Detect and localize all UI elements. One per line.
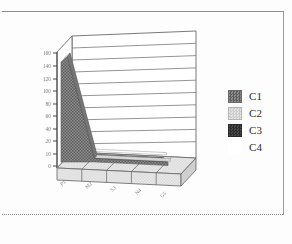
y-tick-label: 100 [43,88,51,94]
legend-item-c3: C3 [228,122,286,139]
legend-swatch-c4 [228,141,242,154]
y-tick-label: 60 [46,113,52,119]
x-tick-label: S3 [109,184,117,192]
legend-item-c2: C2 [228,105,286,122]
chart-legend: C1 C2 C3 C4 [228,88,286,156]
legend-swatch-c3 [228,124,242,137]
y-tick-label: 10 [46,151,52,157]
legend-label-c2: C2 [249,108,262,119]
x-tick-label: G5 [159,190,168,199]
scanned-page: 160 140 120 100 80 60 40 20 10 0 [0,0,292,244]
y-axis-tick-labels: 160 140 120 100 80 60 40 20 10 0 [43,50,51,169]
legend-item-c4: C4 [228,139,286,156]
y-tick-label: 140 [43,63,51,69]
legend-label-c4: C4 [249,142,262,153]
y-tick-label: 0 [48,163,51,169]
y-tick-label: 120 [43,76,51,82]
legend-swatch-c1 [228,90,242,103]
legend-label-c1: C1 [249,91,262,102]
y-axis-ticks [53,53,57,166]
legend-swatch-c2 [228,107,242,120]
y-tick-label: 40 [46,126,52,132]
y-tick-label: 80 [46,101,52,107]
legend-item-c1: C1 [228,88,286,105]
legend-label-c3: C3 [249,125,262,136]
y-tick-label: 160 [43,50,51,56]
y-tick-label: 20 [46,138,52,144]
x-tick-label: N4 [134,187,143,196]
